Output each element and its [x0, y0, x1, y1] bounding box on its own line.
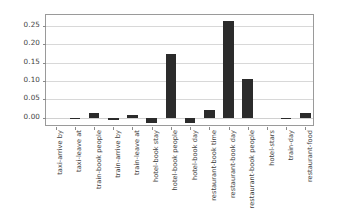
plot-area — [45, 14, 314, 126]
x-tick-label: taxi-leave at — [76, 130, 83, 172]
gridline — [46, 63, 313, 64]
bar — [108, 118, 119, 120]
y-tick-label: 0.10 — [24, 76, 40, 83]
bar — [242, 79, 253, 118]
x-tick-label: hotel-book stay — [153, 130, 160, 182]
y-tick-label: 0.15 — [24, 58, 40, 65]
bar — [70, 118, 81, 119]
bar — [127, 115, 138, 118]
y-tick-label: 0.20 — [24, 40, 40, 47]
x-tick-label: hotel-book people — [172, 130, 179, 190]
y-tick-mark — [43, 26, 46, 27]
x-tick-label: restaurant-book time — [211, 130, 218, 201]
y-tick-mark — [43, 81, 46, 82]
y-tick-label: 0.25 — [24, 21, 40, 28]
bar — [281, 118, 292, 119]
bar — [223, 21, 234, 118]
bar — [89, 113, 100, 118]
y-tick-mark — [43, 44, 46, 45]
x-tick-label: train-arrive by — [115, 130, 122, 178]
y-tick-label: 0.05 — [24, 95, 40, 102]
bar — [185, 118, 196, 123]
x-tick-label: hotel-book day — [192, 130, 199, 180]
bar — [146, 118, 157, 124]
gridline — [46, 99, 313, 100]
bar-chart-figure: 0.000.050.100.150.200.25 taxi-arrive byt… — [0, 0, 339, 211]
x-tick-label: train-day — [288, 130, 295, 160]
zero-line — [46, 118, 313, 119]
x-tick-label: hotel-stars — [269, 130, 276, 166]
gridline — [46, 44, 313, 45]
y-tick-mark — [43, 99, 46, 100]
bar — [204, 110, 215, 118]
x-tick-label: taxi-arrive by — [57, 130, 64, 175]
x-tick-label: restaurant-food — [307, 130, 314, 182]
gridline — [46, 26, 313, 27]
y-tick-mark — [43, 118, 46, 119]
y-tick-label: 0.00 — [24, 113, 40, 120]
bar — [300, 113, 311, 118]
x-tick-label: restaurant-book people — [249, 130, 256, 208]
bar — [166, 54, 177, 118]
x-tick-label: train-book people — [96, 130, 103, 189]
gridline — [46, 81, 313, 82]
x-tick-label: train-leave at — [134, 130, 141, 175]
x-tick-label: restaurant-book day — [230, 130, 237, 198]
y-tick-mark — [43, 63, 46, 64]
